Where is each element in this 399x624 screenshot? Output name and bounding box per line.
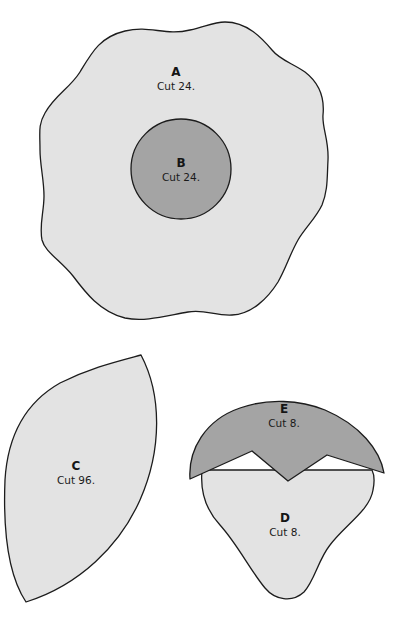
piece-c: C Cut 96. bbox=[5, 355, 157, 602]
piece-b: B Cut 24. bbox=[131, 119, 231, 219]
piece-a-cut-count: Cut 24. bbox=[157, 80, 195, 92]
piece-b-letter: B bbox=[176, 156, 185, 170]
pattern-sheet: A Cut 24. B Cut 24. C Cut 96. D Cut 8. E… bbox=[0, 0, 399, 624]
piece-b-cut-count: Cut 24. bbox=[162, 171, 200, 183]
piece-d: D Cut 8. bbox=[202, 470, 374, 599]
piece-e: E Cut 8. bbox=[190, 401, 384, 481]
piece-d-letter: D bbox=[280, 511, 290, 525]
piece-e-letter: E bbox=[280, 402, 288, 416]
piece-a-letter: A bbox=[171, 65, 181, 79]
piece-d-cut-count: Cut 8. bbox=[269, 526, 300, 538]
piece-c-letter: C bbox=[72, 459, 81, 473]
piece-e-cut-count: Cut 8. bbox=[268, 417, 299, 429]
piece-c-cut-count: Cut 96. bbox=[57, 474, 95, 486]
